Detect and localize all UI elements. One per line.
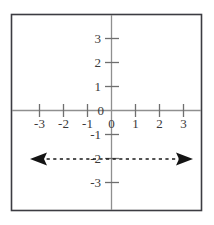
x-tick-label-2: 2 — [156, 116, 163, 131]
x-tick-label-3: 3 — [180, 116, 187, 131]
coordinate-plane-figure: -3 -2 -1 0 1 2 3 3 2 1 0 -1 -2 -3 — [0, 0, 214, 225]
y-tick-label-2: 2 — [95, 55, 102, 70]
x-tick-label-1: 1 — [132, 116, 139, 131]
y-tick-label-neg3: -3 — [90, 175, 101, 190]
y-tick-label-1: 1 — [95, 79, 102, 94]
y-tick-label-3: 3 — [95, 31, 102, 46]
graph-canvas: -3 -2 -1 0 1 2 3 3 2 1 0 -1 -2 -3 — [0, 0, 214, 225]
x-tick-label-neg2: -2 — [58, 116, 69, 131]
y-tick-label-origin: 0 — [98, 103, 105, 118]
y-tick-label-neg1: -1 — [90, 127, 101, 142]
x-tick-label-neg3: -3 — [34, 116, 45, 131]
x-tick-label-origin: 0 — [108, 116, 115, 131]
